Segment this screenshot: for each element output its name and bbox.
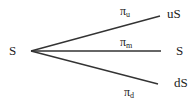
node-down-label: dS [174,76,188,89]
root-node-label: S [9,44,16,57]
node-mid-label: S [176,44,183,57]
branch-down-line [31,51,158,84]
prob-mid-label: πm [120,36,132,52]
prob-down-label: πd [124,86,134,102]
prob-up-sub: u [126,10,130,19]
tree-diagram [0,0,195,104]
branch-up-line [31,16,160,51]
prob-mid-sub: m [126,41,132,50]
node-up-label: uS [167,7,181,20]
prob-down-sub: d [130,91,134,100]
prob-up-label: πu [120,5,130,21]
